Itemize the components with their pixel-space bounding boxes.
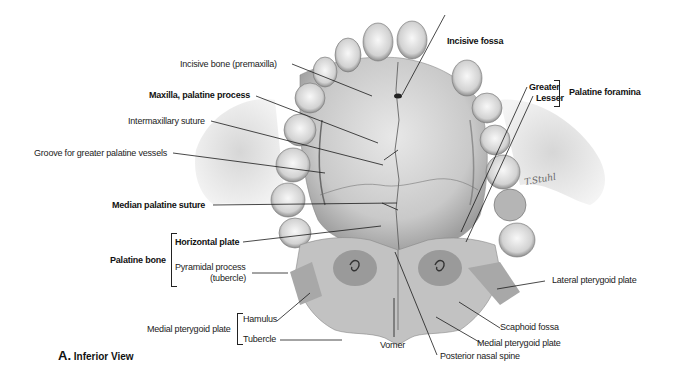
zygomatic-wing-left: [195, 99, 285, 205]
label-horizontal-plate: Horizontal plate: [175, 237, 239, 248]
label-hamulus: Hamulus: [243, 314, 277, 325]
label-posterior-nasal-spine: Posterior nasal spine: [440, 351, 520, 362]
label-pyramidal-process-tubercle: (tubercle): [210, 273, 246, 284]
label-incisive-bone: Incisive bone (premaxilla): [180, 59, 277, 70]
label-tubercle: Tubercle: [243, 334, 276, 345]
label-palatine-bone: Palatine bone: [110, 255, 166, 266]
label-medial-pterygoid-plate-right: Medial pterygoid plate: [477, 338, 561, 349]
label-palatine-foramina: Palatine foramina: [569, 87, 641, 98]
label-pyramidal-process: Pyramidal process: [175, 262, 246, 273]
label-lateral-pterygoid-plate: Lateral pterygoid plate: [552, 275, 636, 286]
palatine-foramina-bracket: [554, 80, 560, 107]
label-incisive-fossa: Incisive fossa: [447, 36, 503, 47]
label-intermaxillary-suture: Intermaxillary suture: [128, 116, 205, 127]
label-medial-pterygoid-plate-left: Medial pterygoid plate: [147, 324, 231, 335]
label-vomer: Vomer: [380, 340, 405, 351]
pterygoid-region: [290, 238, 520, 345]
figure-caption: A. Inferior View: [58, 348, 134, 363]
label-scaphoid-fossa: Scaphoid fossa: [500, 322, 559, 333]
skull-illustration: T.Stuhl: [0, 0, 677, 385]
caption-letter: A.: [58, 348, 71, 363]
label-median-palatine-suture: Median palatine suture: [112, 200, 205, 211]
zygomatic-wing-right: [500, 100, 605, 205]
caption-text: Inferior View: [74, 351, 134, 362]
label-groove-greater-palatine-vessels: Groove for greater palatine vessels: [34, 148, 167, 159]
label-maxilla-palatine-process: Maxilla, palatine process: [149, 90, 250, 101]
